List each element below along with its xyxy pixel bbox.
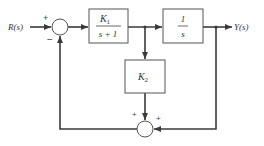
sum2-plus-sign-right: +: [156, 114, 161, 123]
k1-denominator: s + 1: [99, 29, 118, 39]
summing-junction-2: [137, 121, 153, 137]
branch-point-k1: [143, 25, 146, 28]
summing-junction-1: [52, 19, 68, 35]
block-diagram: K1 s + 1 1 s K2 R(s) Y(s) + − + +: [0, 0, 264, 146]
input-label: R(s): [7, 22, 23, 32]
sum1-plus-sign: +: [43, 13, 48, 23]
sum2-plus-sign-left: +: [132, 110, 137, 119]
output-label: Y(s): [234, 22, 249, 32]
branch-point-output: [214, 25, 217, 28]
integrator-denominator: s: [181, 29, 185, 39]
sum1-minus-sign: −: [47, 34, 53, 45]
integrator-numerator: 1: [181, 14, 186, 24]
